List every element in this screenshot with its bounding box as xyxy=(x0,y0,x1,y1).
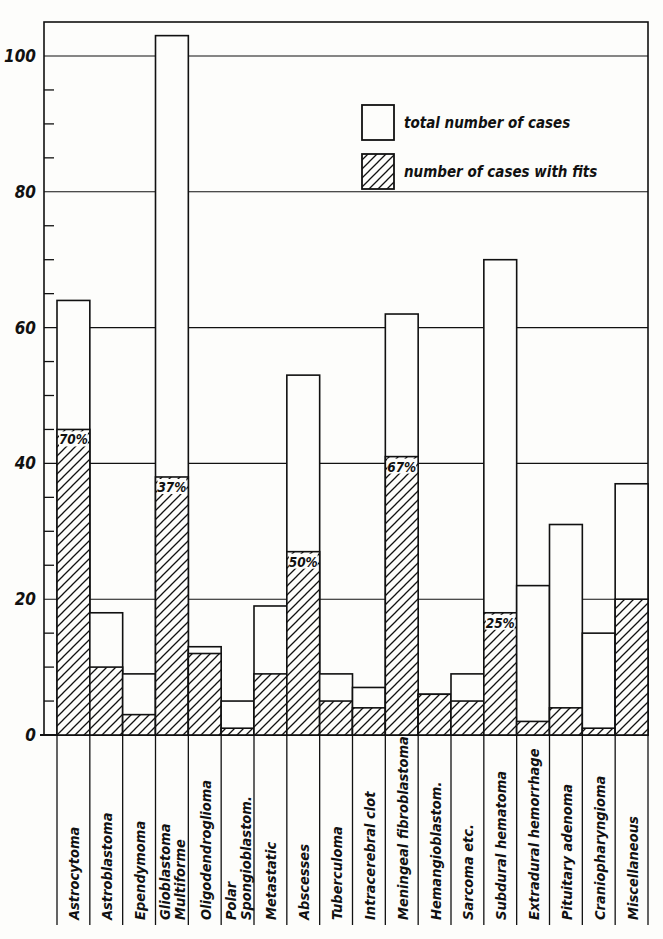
bar-group-hemangioblastom- xyxy=(418,694,451,735)
bar-group-intracerebral-clot xyxy=(353,687,386,735)
x-tick-label: Metastatic xyxy=(263,842,279,920)
bar-fits xyxy=(156,477,189,735)
legend-label-total: total number of cases xyxy=(404,114,570,132)
x-tick-label: Multiforme xyxy=(172,839,188,920)
bar-group-extradural-hemorrhage xyxy=(517,586,550,735)
percent-label: 67% xyxy=(387,459,416,475)
legend-label-fits: number of cases with fits xyxy=(404,163,597,181)
bar-fits xyxy=(582,728,615,735)
bar-group-astroblastoma xyxy=(90,613,123,735)
legend: total number of casesnumber of cases wit… xyxy=(362,105,597,189)
bar-fits xyxy=(418,694,451,735)
bar-total xyxy=(517,586,550,735)
bar-fits xyxy=(123,715,156,735)
bar-group-glioblastoma-multiforme xyxy=(156,36,189,735)
x-tick-label: Meningeal fibroblastoma xyxy=(395,736,411,920)
x-tick-label: Sarcoma etc. xyxy=(460,824,476,920)
y-tick-label-100: 100 xyxy=(4,46,36,66)
x-tick-label: Astroblastoma xyxy=(99,813,115,921)
x-tick-label: Ependymoma xyxy=(132,821,148,920)
bar-group-tuberculoma xyxy=(320,674,353,735)
bar-total xyxy=(550,525,583,735)
bar-chart: 020406080100 70%37%50%67%25% total numbe… xyxy=(0,0,663,939)
x-tick-label: Subdural hematoma xyxy=(493,771,509,920)
percent-label: 70% xyxy=(59,431,88,447)
legend-swatch-fits xyxy=(362,154,394,189)
bar-fits xyxy=(484,613,517,735)
x-tick-label: Miscellaneous xyxy=(625,816,641,920)
bar-group-meningeal-fibroblastoma xyxy=(385,314,418,735)
bar-group-miscellaneous xyxy=(615,484,648,735)
bar-fits xyxy=(90,667,123,735)
bar-group-craniopharyngioma xyxy=(582,633,615,735)
bar-group-pituitary-adenoma xyxy=(550,525,583,735)
bar-group-ependymoma xyxy=(123,674,156,735)
x-tick-label: Glioblastoma xyxy=(157,823,173,920)
bar-fits xyxy=(287,552,320,735)
bar-group-subdural-hematoma xyxy=(484,260,517,735)
y-tick-label-0: 0 xyxy=(25,725,36,745)
bar-fits xyxy=(188,654,221,735)
bar-fits xyxy=(550,708,583,735)
bar-group-metastatic xyxy=(254,606,287,735)
x-tick-label: Abscesses xyxy=(296,844,312,921)
x-tick-label: Spongioblastom. xyxy=(238,796,254,920)
bar-fits xyxy=(57,429,90,735)
y-tick-label-20: 20 xyxy=(15,589,37,609)
bar-total xyxy=(582,633,615,735)
bar-fits xyxy=(385,457,418,735)
legend-swatch-total xyxy=(362,105,394,140)
bar-fits xyxy=(451,701,484,735)
bar-fits xyxy=(353,708,386,735)
x-tick-label: Tuberculoma xyxy=(329,826,345,920)
y-tick-label-80: 80 xyxy=(15,182,37,202)
x-tick-label: Craniopharyngioma xyxy=(592,776,608,920)
x-tick-label: Pituitary adenoma xyxy=(559,784,575,920)
bar-fits xyxy=(254,674,287,735)
y-tick-label-60: 60 xyxy=(15,318,37,338)
y-tick-label-40: 40 xyxy=(14,453,37,473)
bar-fits xyxy=(320,701,353,735)
bar-group-astrocytoma xyxy=(57,300,90,735)
bar-fits xyxy=(615,599,648,735)
x-tick-label: Hemangioblastom. xyxy=(428,782,444,920)
bars xyxy=(57,36,648,735)
bar-fits xyxy=(221,728,254,735)
x-axis-labels: AstrocytomaAstroblastomaEpendymomaGliobl… xyxy=(57,735,648,925)
percent-label: 25% xyxy=(486,615,515,631)
bar-group-polar-spongioblastom- xyxy=(221,701,254,735)
bar-group-sarcoma-etc- xyxy=(451,674,484,735)
x-tick-label: Astrocytoma xyxy=(66,827,82,921)
x-tick-label: Extradural hemorrhage xyxy=(526,748,542,920)
bar-group-oligodendroglioma xyxy=(188,647,221,735)
grid-lines xyxy=(44,56,648,599)
x-tick-label: Polar xyxy=(223,880,239,920)
bar-fits xyxy=(517,721,550,735)
chart-canvas: 020406080100 70%37%50%67%25% total numbe… xyxy=(0,0,663,939)
percent-label: 50% xyxy=(289,554,318,570)
percent-label: 37% xyxy=(157,479,186,495)
x-tick-label: Intracerebral clot xyxy=(362,791,378,920)
x-tick-label: Oligodendroglioma xyxy=(198,780,214,920)
